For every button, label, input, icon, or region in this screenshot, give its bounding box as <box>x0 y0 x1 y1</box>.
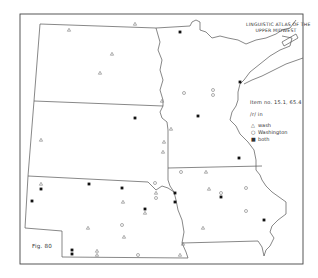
square-icon <box>174 192 177 195</box>
square-icon <box>88 183 91 186</box>
sd-ne-border <box>28 176 174 192</box>
circle-icon <box>121 224 124 227</box>
square-icon <box>31 200 34 203</box>
triangle-icon <box>161 150 164 153</box>
triangle-icon <box>143 211 146 214</box>
sd-west-border <box>28 101 34 176</box>
nd-sd-border <box>34 101 163 106</box>
triangle-icon <box>133 22 136 25</box>
red-river-border <box>156 28 168 165</box>
triangle-icon <box>154 191 157 194</box>
nd-north-border <box>40 24 156 28</box>
square-icon <box>40 188 43 191</box>
ia-south-border <box>182 241 264 256</box>
atlas-title-line2: UPPER MIDWEST <box>246 28 306 34</box>
square-icon <box>134 117 137 120</box>
triangle-icon <box>204 170 207 173</box>
square-icon <box>263 219 266 222</box>
square-icon <box>71 249 74 252</box>
triangle-icon <box>39 138 42 141</box>
square-icon <box>239 81 242 84</box>
triangle-icon <box>86 226 89 229</box>
legend-item-both: ■ both <box>251 135 287 142</box>
square-icon <box>220 196 223 199</box>
circle-icon <box>245 210 248 213</box>
square-icon <box>179 31 182 34</box>
circle-icon <box>220 192 223 195</box>
mississippi-river-border <box>256 170 286 256</box>
legend-item-washington: ○ Washington <box>251 128 287 135</box>
legend-item-wash: △ wash <box>251 121 287 128</box>
triangle-icon <box>201 226 204 229</box>
nd-west-border <box>34 24 40 101</box>
triangle-icon <box>67 28 70 31</box>
triangle-icon: △ <box>251 122 258 128</box>
survey-markers <box>31 22 266 256</box>
item-number-label: Item no. 15.1, 65.4 <box>250 99 302 105</box>
triangle-icon <box>95 253 98 256</box>
phoneme-label: /r/ in <box>250 111 263 117</box>
circle-icon <box>154 182 157 185</box>
circle-icon <box>212 89 215 92</box>
triangle-icon <box>39 182 42 185</box>
circle-icon <box>183 92 186 95</box>
square-icon <box>144 208 147 211</box>
square-icon: ■ <box>251 136 258 142</box>
triangle-icon <box>110 52 113 55</box>
circle-icon <box>137 254 140 257</box>
legend: △ wash ○ Washington ■ both <box>251 121 287 142</box>
triangle-icon <box>162 140 165 143</box>
isle-royale <box>282 34 298 46</box>
sd-east-border <box>168 165 174 192</box>
square-icon <box>121 187 124 190</box>
circle-icon <box>212 94 215 97</box>
circle-icon <box>155 197 158 200</box>
lake-superior-shore <box>230 20 296 170</box>
triangle-icon <box>207 187 210 190</box>
square-icon <box>238 157 241 160</box>
legend-label: both <box>258 136 269 142</box>
triangle-icon <box>121 200 124 203</box>
circle-icon: ○ <box>251 129 258 135</box>
triangle-icon <box>169 127 172 130</box>
legend-label: Washington <box>258 129 287 135</box>
circle-icon <box>245 187 248 190</box>
lake-superior-south-shore <box>244 58 303 84</box>
triangle-icon <box>122 235 125 238</box>
triangle-icon <box>178 253 181 256</box>
triangle-icon <box>98 71 101 74</box>
legend-label: wash <box>258 122 271 128</box>
square-icon <box>174 201 177 204</box>
atlas-title: LINGUISTIC ATLAS OF THE UPPER MIDWEST <box>246 22 306 34</box>
triangle-icon <box>95 249 98 252</box>
figure-label: Fig. 80 <box>32 243 52 249</box>
circle-icon <box>180 171 183 174</box>
square-icon <box>197 115 200 118</box>
mn-ia-border <box>168 166 262 168</box>
square-icon <box>71 253 74 256</box>
